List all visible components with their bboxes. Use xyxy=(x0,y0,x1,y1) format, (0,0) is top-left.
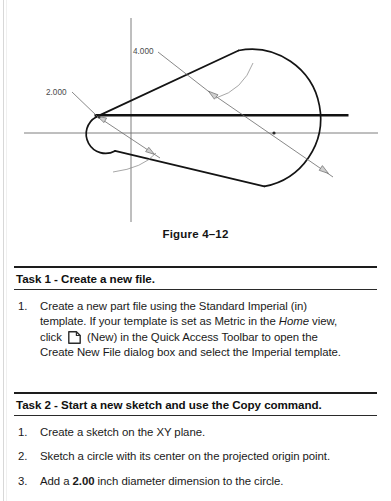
task-2-step-1-text: Create a sketch on the XY plane. xyxy=(40,425,377,440)
task-2-step-2-text: Sketch a circle with its center on the p… xyxy=(40,449,377,464)
task-2-step-2: 2. Sketch a circle with its center on th… xyxy=(14,449,377,464)
origin-point-small xyxy=(98,116,101,119)
dim-2000-arrow-end xyxy=(146,147,155,154)
task-2-step-1-number: 1. xyxy=(18,425,27,440)
task-2-step-3-post: inch diameter dimension to the circle. xyxy=(95,475,284,487)
task-1-step-1-line-2a: template. If your template is set as Met… xyxy=(40,315,279,327)
task-2-step-list: 1. Create a sketch on the XY plane. 2. S… xyxy=(14,425,377,489)
dim-4000-arc xyxy=(216,63,253,98)
task-2-step-3-number: 3. xyxy=(18,474,27,489)
task-1-rule-bottom xyxy=(14,289,377,290)
task-1-step-1-line-3b: (New) in the Quick Access Toolbar to ope… xyxy=(84,331,318,343)
task-1-steps: 1. Create a new part file using the Stan… xyxy=(14,299,377,361)
profile-small-arc xyxy=(86,117,115,153)
task-1-step-1-line-2: template. If your template is set as Met… xyxy=(40,314,377,329)
task-1-step-1-line-2c: view, xyxy=(309,315,337,327)
dim-4000-line xyxy=(208,91,333,177)
task-1-step-1-line-3: click (New) in the Quick Access Toolbar … xyxy=(40,330,377,345)
task-1-click-word: click xyxy=(40,331,65,343)
task-1-heading: Task 1 - Create a new file. xyxy=(14,268,377,289)
new-file-icon[interactable] xyxy=(68,331,81,344)
task-2-step-3: 3. Add a 2.00 inch diameter dimension to… xyxy=(14,474,377,489)
profile-large-arc xyxy=(239,49,321,186)
task-1-step-1-number: 1. xyxy=(18,299,27,314)
profile-upper-tangent xyxy=(96,51,238,117)
task-2-step-3-pre: Add a xyxy=(40,475,73,487)
task-2-header-block: Task 2 - Start a new sketch and use the … xyxy=(14,392,377,416)
task-2-rule-bottom xyxy=(14,415,377,416)
task-2-step-1: 1. Create a sketch on the XY plane. xyxy=(14,425,377,440)
cad-sketch-svg: 2.000 4.000 xyxy=(0,0,391,222)
task-1-step-1-line-1: Create a new part file using the Standar… xyxy=(40,299,377,314)
task-1-step-list: 1. Create a new part file using the Stan… xyxy=(14,299,377,361)
figure-caption: Figure 4–12 xyxy=(0,228,391,240)
profile-lower-tangent xyxy=(115,151,264,187)
task-1-header-block: Task 1 - Create a new file. xyxy=(14,266,377,290)
task-2-steps: 1. Create a sketch on the XY plane. 2. S… xyxy=(14,425,377,489)
task-1-step-1-line-4: Create New File dialog box and select th… xyxy=(40,345,377,360)
dim-label-2000: 2.000 xyxy=(46,88,67,97)
task-2-heading: Task 2 - Start a new sketch and use the … xyxy=(14,394,377,415)
center-point-large xyxy=(272,131,275,134)
task-2-step-2-number: 2. xyxy=(18,449,27,464)
dim-4000-arrow-end xyxy=(319,166,328,174)
task-1-step-1: 1. Create a new part file using the Stan… xyxy=(14,299,377,361)
task-2-step-3-text: Add a 2.00 inch diameter dimension to th… xyxy=(40,474,377,489)
dim-label-4000: 4.000 xyxy=(133,47,154,56)
figure-4-12-drawing: 2.000 4.000 xyxy=(0,0,391,222)
dim-2000-leader xyxy=(72,92,98,117)
task-1-home-view-emphasis: Home xyxy=(279,315,309,327)
task-2-diameter-value: 2.00 xyxy=(73,475,95,487)
